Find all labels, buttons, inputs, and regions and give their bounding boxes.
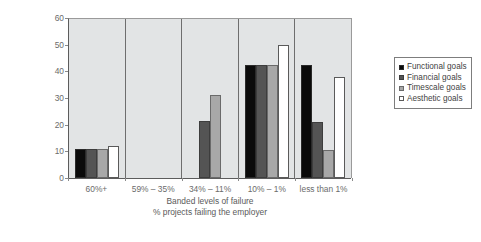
bar <box>334 77 345 178</box>
bar-group <box>181 19 238 178</box>
y-tick-label: 40 <box>38 67 64 75</box>
bar-group <box>125 19 182 178</box>
bar <box>323 150 334 178</box>
plot-area <box>68 18 352 178</box>
bar <box>267 65 278 178</box>
y-tick-label: 20 <box>38 121 64 129</box>
bar <box>278 45 289 178</box>
y-tick-label: 50 <box>38 41 64 49</box>
legend-label: Timescale goals <box>407 83 466 93</box>
bar-groups <box>69 19 351 178</box>
bar <box>210 95 221 178</box>
legend-label: Financial goals <box>407 73 462 83</box>
bar <box>312 122 323 178</box>
bar <box>301 65 312 178</box>
x-tick-label: 59% – 35% <box>125 180 182 196</box>
bar-group-bars <box>301 19 345 178</box>
y-tick-mark <box>65 45 68 46</box>
y-tick-label: 0 <box>38 174 64 182</box>
chart-legend: Functional goalsFinancial goalsTimescale… <box>394 57 472 109</box>
legend-swatch-icon <box>399 75 404 80</box>
bar <box>245 65 256 178</box>
legend-item[interactable]: Functional goals <box>399 62 468 72</box>
y-tick-mark <box>65 18 68 19</box>
bar <box>86 149 97 178</box>
legend-swatch-icon <box>399 96 404 101</box>
x-axis-title: Banded levels of failure <box>68 196 352 207</box>
y-tick-label: 30 <box>38 94 64 102</box>
y-tick-mark <box>65 71 68 72</box>
x-tick-label: less than 1% <box>295 180 352 196</box>
bar <box>108 146 119 178</box>
legend-label: Aesthetic goals <box>407 94 463 104</box>
legend-item[interactable]: Financial goals <box>399 73 468 83</box>
x-tick-label: 60%+ <box>68 180 125 196</box>
x-axis-subtitle: % projects failing the employer <box>48 207 372 218</box>
x-tick-label: 34% – 11% <box>182 180 239 196</box>
chart-figure: Proportional % of Developer's Experience… <box>0 0 481 242</box>
bar-group <box>238 19 295 178</box>
bar <box>75 149 86 178</box>
y-tick-mark <box>65 151 68 152</box>
bar <box>97 149 108 178</box>
y-tick-mark <box>65 125 68 126</box>
bar <box>256 65 267 178</box>
bar-group-bars <box>75 19 119 178</box>
y-axis-ticks: 0102030405060 <box>36 0 64 242</box>
y-tick-label: 60 <box>38 14 64 22</box>
legend-swatch-icon <box>399 65 404 70</box>
y-tick-mark <box>65 178 68 179</box>
legend-item[interactable]: Timescale goals <box>399 83 468 93</box>
legend-label: Functional goals <box>407 62 467 72</box>
x-tick-label: 10% – 1% <box>238 180 295 196</box>
bar <box>199 121 210 178</box>
legend-swatch-icon <box>399 86 404 91</box>
x-tick-mark <box>352 178 353 181</box>
bar-group-bars <box>199 19 221 178</box>
y-tick-mark <box>65 98 68 99</box>
x-axis-tick-labels: 60%+59% – 35%34% – 11%10% – 1%less than … <box>68 180 352 196</box>
bar-group <box>69 19 125 178</box>
bar-group-bars <box>245 19 289 178</box>
bar-group <box>294 19 351 178</box>
y-tick-label: 10 <box>38 147 64 155</box>
legend-item[interactable]: Aesthetic goals <box>399 94 468 104</box>
